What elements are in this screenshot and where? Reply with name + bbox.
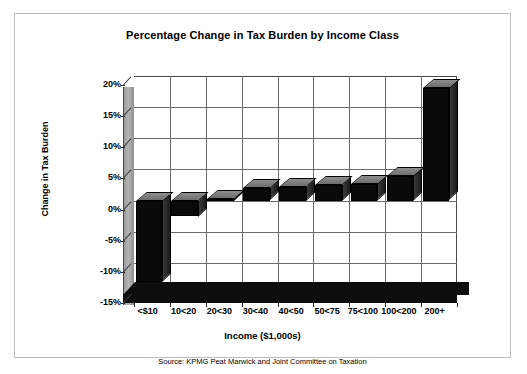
x-axis-tick bbox=[278, 303, 279, 307]
y-tick-label: -10% bbox=[100, 266, 121, 276]
x-axis-tick bbox=[242, 303, 243, 307]
x-axis-tick bbox=[313, 303, 314, 307]
bar-<$10[interactable] bbox=[136, 201, 163, 282]
bar-75<100[interactable] bbox=[351, 184, 378, 201]
gridline bbox=[134, 232, 457, 233]
plot-area bbox=[134, 76, 457, 294]
x-tick-label: 100<200 bbox=[381, 306, 417, 316]
bar-side-face bbox=[449, 80, 458, 201]
chart-frame: Percentage Change in Tax Burden by Incom… bbox=[14, 13, 511, 358]
y-tick-label: -15% bbox=[100, 297, 121, 307]
gridline bbox=[134, 263, 457, 264]
y-axis-title: Change in Tax Burden bbox=[40, 99, 50, 239]
bar-front-face bbox=[171, 201, 198, 217]
x-tick-label: 200+ bbox=[417, 306, 453, 316]
bar-100<200[interactable] bbox=[387, 176, 414, 201]
gridline bbox=[242, 76, 243, 294]
y-tick-label: 15% bbox=[103, 110, 121, 120]
y-tick-label: 10% bbox=[103, 141, 121, 151]
x-tick-label: 10<20 bbox=[166, 306, 202, 316]
bar-40<50[interactable] bbox=[279, 187, 306, 201]
x-axis-tick-labels: <$1010<2020<3030<4040<5050<7575<100100<2… bbox=[123, 306, 469, 322]
x-tick-label: 30<40 bbox=[237, 306, 273, 316]
bar-front-face bbox=[423, 88, 450, 200]
y-axis-tick-labels: 20%15%10%5%0%-5%-10%-15% bbox=[73, 14, 121, 374]
y-tick-label: -5% bbox=[105, 235, 121, 245]
x-axis-tick bbox=[349, 303, 350, 307]
y-tick-label: 5% bbox=[108, 172, 121, 182]
source-note: Source: KPMG Peat Marwick and Joint Comm… bbox=[15, 357, 510, 366]
x-axis-tick bbox=[170, 303, 171, 307]
x-tick-label: 40<50 bbox=[273, 306, 309, 316]
bar-front-face bbox=[136, 201, 163, 282]
bar-front-face bbox=[315, 185, 342, 201]
y-tick-label: 0% bbox=[108, 204, 121, 214]
x-axis-tick bbox=[206, 303, 207, 307]
gridline bbox=[134, 138, 457, 139]
bar-front-face bbox=[279, 187, 306, 201]
bar-front-face bbox=[387, 176, 414, 201]
x-tick-label: 20<30 bbox=[201, 306, 237, 316]
chart-floor-front bbox=[123, 294, 457, 303]
bar-10<20[interactable] bbox=[171, 201, 198, 217]
side-wall-tick bbox=[123, 76, 132, 86]
bar-20<30[interactable] bbox=[207, 199, 234, 201]
bar-200+[interactable] bbox=[423, 88, 450, 200]
bar-front-face bbox=[243, 188, 270, 200]
gridline bbox=[134, 107, 457, 108]
gridline bbox=[206, 76, 207, 294]
y-tick-label: 20% bbox=[103, 79, 121, 89]
bar-50<75[interactable] bbox=[315, 185, 342, 201]
x-axis-tick bbox=[134, 303, 135, 307]
x-axis-title: Income ($1,000s) bbox=[15, 330, 510, 341]
x-axis-tick bbox=[385, 303, 386, 307]
bar-side-face bbox=[162, 192, 171, 281]
bar-30<40[interactable] bbox=[243, 188, 270, 200]
x-axis-tick bbox=[421, 303, 422, 307]
x-axis-tick bbox=[457, 303, 458, 307]
x-tick-label: 50<75 bbox=[309, 306, 345, 316]
x-tick-label: 75<100 bbox=[345, 306, 381, 316]
x-tick-label: <$10 bbox=[130, 306, 166, 316]
bar-front-face bbox=[351, 184, 378, 201]
